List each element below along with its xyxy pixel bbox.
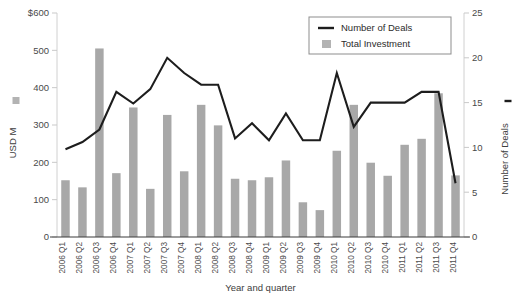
right-axis-title: Number of Deals (499, 123, 510, 195)
x-tick-label: 2011 Q2 (415, 242, 424, 273)
bar (383, 176, 391, 237)
bar (78, 187, 86, 237)
chart-canvas: 0100200300400500$600 0510152025 2006 Q12… (0, 0, 521, 301)
line-series-number-of-deals (65, 58, 455, 183)
bar (282, 160, 290, 237)
bar (180, 171, 188, 237)
right-tick-label: 20 (472, 52, 483, 63)
bar (400, 145, 408, 237)
x-tick-label: 2007 Q2 (143, 242, 152, 274)
left-axis-ticks: 0100200300400500$600 (28, 7, 57, 242)
bar (197, 105, 205, 237)
x-tick-label: 2009 Q4 (313, 242, 322, 274)
bar (231, 179, 239, 237)
left-tick-label: 300 (33, 119, 49, 130)
chart-container: 0100200300400500$600 0510152025 2006 Q12… (0, 0, 521, 301)
bar-series-total-investment (61, 48, 460, 237)
left-tick-label: 400 (33, 82, 49, 93)
right-tick-label: 0 (472, 231, 477, 242)
x-tick-label: 2011 Q4 (449, 242, 458, 273)
x-tick-label: 2006 Q3 (92, 242, 101, 274)
left-tick-label: 0 (44, 231, 49, 242)
left-tick-label: 200 (33, 157, 49, 168)
x-tick-label: 2009 Q2 (279, 242, 288, 274)
legend-item-label: Total Investment (341, 38, 411, 49)
x-tick-label: 2007 Q4 (177, 242, 186, 274)
x-tick-label: 2006 Q4 (109, 242, 118, 274)
chart-legend: Number of DealsTotal Investment (309, 17, 451, 54)
x-tick-label: 2010 Q3 (364, 242, 373, 274)
deals-polyline (65, 58, 455, 183)
left-tick-label: 100 (33, 194, 49, 205)
left-axis-title: USD M (7, 128, 18, 159)
x-tick-label: 2006 Q2 (75, 242, 84, 274)
bar (129, 107, 137, 237)
x-tick-label: 2011 Q3 (432, 242, 441, 273)
x-tick-label: 2007 Q3 (160, 242, 169, 274)
legend-item-label: Number of Deals (341, 22, 413, 33)
bar (451, 175, 459, 237)
bar (265, 177, 273, 237)
bar (112, 173, 120, 237)
bar (417, 139, 425, 237)
bar (333, 151, 341, 237)
bar (163, 115, 171, 237)
bar (434, 93, 442, 237)
x-tick-label: 2008 Q3 (228, 242, 237, 274)
x-tick-label: 2008 Q2 (211, 242, 220, 274)
x-tick-label: 2010 Q2 (347, 242, 356, 274)
x-tick-label: 2010 Q4 (381, 242, 390, 274)
x-axis: 2006 Q12006 Q22006 Q32006 Q42007 Q12007 … (50, 237, 470, 273)
x-tick-label: 2006 Q1 (58, 242, 67, 274)
x-tick-label: 2008 Q1 (194, 242, 203, 274)
legend-bar-swatch-icon (322, 40, 331, 48)
right-tick-label: 10 (472, 142, 483, 153)
x-tick-label: 2011 Q1 (398, 242, 407, 273)
bar (61, 180, 69, 237)
bar (299, 202, 307, 237)
right-tick-label: 5 (472, 187, 477, 198)
right-tick-label: 15 (472, 97, 483, 108)
x-axis-title: Year and quarter (225, 282, 295, 293)
bar (214, 125, 222, 237)
bar (366, 163, 374, 237)
right-axis-ticks: 0510152025 (464, 7, 483, 242)
left-tick-label: $600 (28, 7, 49, 18)
x-tick-label: 2008 Q4 (245, 242, 254, 274)
x-tick-label: 2009 Q1 (262, 242, 271, 274)
left-axis-marker-icon (13, 97, 20, 104)
left-tick-label: 500 (33, 45, 49, 56)
x-tick-label: 2007 Q1 (126, 242, 135, 274)
bar (316, 210, 324, 237)
bar (248, 180, 256, 237)
bar (95, 48, 103, 237)
bar (146, 189, 154, 237)
x-tick-label: 2009 Q3 (296, 242, 305, 274)
x-tick-label: 2010 Q1 (330, 242, 339, 274)
right-tick-label: 25 (472, 7, 483, 18)
